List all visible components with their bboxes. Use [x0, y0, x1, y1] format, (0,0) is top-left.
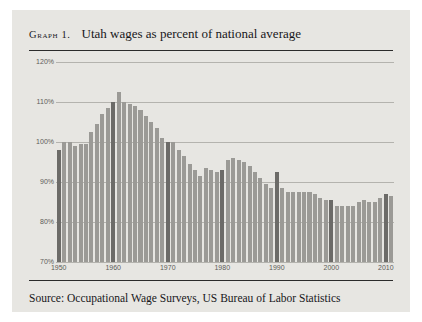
- x-tick-label: 1980: [214, 264, 230, 271]
- bar: [68, 142, 72, 262]
- source-note: Source: Occupational Wage Surveys, US Bu…: [29, 292, 341, 304]
- bar: [188, 164, 192, 262]
- bar: [204, 168, 208, 262]
- bar: [264, 184, 268, 262]
- bar: [269, 188, 273, 262]
- x-axis: 1950196019701980199020002010: [56, 264, 394, 278]
- bar: [155, 128, 159, 262]
- figure-panel: Graph 1. Utah wages as percent of nation…: [12, 10, 410, 312]
- bar: [73, 146, 77, 262]
- y-tick-label: 120%: [28, 58, 54, 65]
- bar: [307, 192, 311, 262]
- bar: [100, 114, 104, 262]
- x-tick-label: 2010: [378, 264, 394, 271]
- bar: [111, 102, 115, 262]
- y-axis: 70%80%90%100%110%120%: [26, 62, 54, 262]
- bar: [362, 200, 366, 262]
- bar: [144, 116, 148, 262]
- bar: [160, 138, 164, 262]
- bar: [318, 198, 322, 262]
- bar: [62, 142, 66, 262]
- x-tick-label: 1990: [269, 264, 285, 271]
- x-tick-label: 1970: [160, 264, 176, 271]
- bar: [346, 206, 350, 262]
- bar: [122, 102, 126, 262]
- bar: [182, 156, 186, 262]
- bar: [166, 142, 170, 262]
- bar: [384, 194, 388, 262]
- x-tick-label: 2000: [324, 264, 340, 271]
- bar: [291, 192, 295, 262]
- bar: [226, 160, 230, 262]
- bar: [275, 172, 279, 262]
- bar: [209, 170, 213, 262]
- bar: [133, 106, 137, 262]
- page-title: Utah wages as percent of national averag…: [82, 26, 301, 41]
- y-tick-label: 100%: [28, 138, 54, 145]
- y-tick-label: 80%: [28, 218, 54, 225]
- bar: [177, 150, 181, 262]
- bar: [297, 192, 301, 262]
- bar: [313, 194, 317, 262]
- bar: [117, 92, 121, 262]
- bar: [231, 158, 235, 262]
- bar-series: [56, 62, 394, 262]
- bar: [302, 192, 306, 262]
- x-tick-label: 1960: [105, 264, 121, 271]
- bar: [340, 206, 344, 262]
- bar: [280, 188, 284, 262]
- source-block: Source: Occupational Wage Surveys, US Bu…: [29, 280, 393, 306]
- graph-number-label: Graph 1.: [29, 29, 71, 40]
- gridline: [56, 262, 394, 263]
- bar: [138, 110, 142, 262]
- bar: [128, 104, 132, 262]
- bar: [237, 160, 241, 262]
- bar: [198, 176, 202, 262]
- x-tick-label: 1950: [51, 264, 67, 271]
- y-tick-label: 110%: [28, 98, 54, 105]
- bar: [258, 178, 262, 262]
- bar: [57, 150, 61, 262]
- bar: [286, 192, 290, 262]
- bar: [242, 162, 246, 262]
- y-tick-label: 90%: [28, 178, 54, 185]
- bar: [367, 202, 371, 262]
- bar: [253, 172, 257, 262]
- bar: [389, 196, 393, 262]
- graph-title-block: Graph 1. Utah wages as percent of nation…: [29, 24, 393, 51]
- bar: [357, 202, 361, 262]
- bar: [220, 170, 224, 262]
- bar: [351, 206, 355, 262]
- bar: [79, 144, 83, 262]
- bar: [215, 172, 219, 262]
- bar: [378, 198, 382, 262]
- bar: [248, 166, 252, 262]
- bar: [84, 144, 88, 262]
- bar: [373, 202, 377, 262]
- bar: [193, 170, 197, 262]
- bar: [171, 142, 175, 262]
- bar: [324, 200, 328, 262]
- bar: [335, 206, 339, 262]
- bar: [329, 200, 333, 262]
- bar: [89, 132, 93, 262]
- bar: [106, 108, 110, 262]
- bar: [95, 124, 99, 262]
- bar: [149, 122, 153, 262]
